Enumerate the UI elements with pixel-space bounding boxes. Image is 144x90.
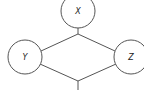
node-z-label: Z (127, 53, 134, 62)
diagram-canvas: X Y Z (0, 0, 144, 90)
edge-z-bottom (78, 64, 116, 81)
edge-x-z (78, 34, 115, 51)
edge-x-y (41, 34, 78, 51)
node-x-label: X (74, 7, 81, 16)
edge-y-bottom (40, 64, 78, 81)
